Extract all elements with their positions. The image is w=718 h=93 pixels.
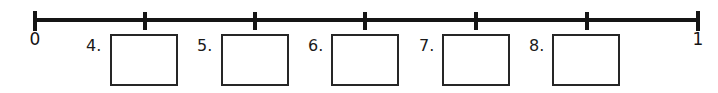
worksheet-canvas: 0 1 4.5.6.7.8. (0, 0, 718, 93)
answer-item-5: 8. (0, 33, 718, 88)
answer-boxes: 4.5.6.7.8. (0, 0, 718, 93)
answer-item-number: 8. (529, 37, 544, 55)
answer-input-box[interactable] (552, 34, 620, 86)
